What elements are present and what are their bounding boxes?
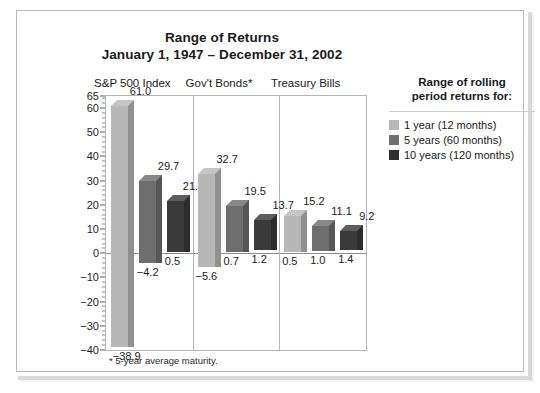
bar-value-high: 19.5 xyxy=(245,185,266,197)
bar-side-face xyxy=(128,100,134,348)
y-tick-label: 40 xyxy=(87,150,99,162)
bar-front-face xyxy=(312,226,329,250)
bar xyxy=(167,201,184,252)
bar-value-low: 1.2 xyxy=(252,253,267,265)
plot-area: 61.0−38.929.7−4.221.40.532.7−5.619.50.71… xyxy=(105,95,367,351)
y-tick-label: 20 xyxy=(87,199,99,211)
legend-item-3[interactable]: 10 years (120 months) xyxy=(389,149,535,161)
legend-item-1[interactable]: 1 year (12 months) xyxy=(389,119,535,131)
bar-value-low: 1.0 xyxy=(310,254,325,266)
legend: Range of rolling period returns for: 1 y… xyxy=(389,75,535,164)
chart-subtitle: January 1, 1947 – December 31, 2002 xyxy=(17,46,427,63)
chart-page: Range of Returns January 1, 1947 – Decem… xyxy=(0,0,540,393)
chart-title-block: Range of Returns January 1, 1947 – Decem… xyxy=(17,29,427,63)
bar-value-high: 61.0 xyxy=(130,85,151,97)
y-tick-label: −20 xyxy=(80,296,99,308)
legend-item-2[interactable]: 5 years (60 months) xyxy=(389,134,535,146)
column-header-2: Gov't Bonds* xyxy=(176,77,263,89)
bar xyxy=(254,220,271,250)
bar-side-face xyxy=(243,200,249,251)
bar-value-high: 11.1 xyxy=(331,205,352,217)
bar-side-face xyxy=(156,175,162,263)
bar-value-low: 0.5 xyxy=(282,255,297,267)
legend-item-label: 5 years (60 months) xyxy=(404,134,502,146)
y-tick-label: 0 xyxy=(93,247,99,259)
bar xyxy=(139,181,156,263)
y-tick-label: −40 xyxy=(80,344,99,356)
bar xyxy=(226,206,243,251)
y-tick-label: −10 xyxy=(80,271,99,283)
bar-front-face xyxy=(284,216,301,252)
legend-title-line2: period returns for: xyxy=(389,89,535,103)
bar-front-face xyxy=(340,231,357,250)
chart-footnote: * 5-year average maturity. xyxy=(109,355,218,366)
y-tick-label: 65 xyxy=(87,90,99,102)
y-tick-label: 10 xyxy=(87,223,99,235)
bar-front-face xyxy=(226,206,243,251)
bar-side-face xyxy=(184,195,190,252)
bar-front-face xyxy=(111,106,128,348)
bar xyxy=(111,106,128,348)
bar-front-face xyxy=(139,181,156,263)
y-tick-label: 60 xyxy=(87,102,99,114)
y-axis: 656050403020100−10−20−30−40 xyxy=(69,95,105,351)
y-tick-label: −30 xyxy=(80,320,99,332)
legend-item-label: 1 year (12 months) xyxy=(404,119,496,131)
chart-title: Range of Returns xyxy=(17,29,427,46)
bar-front-face xyxy=(167,201,184,252)
column-header-3: Treasury Bills xyxy=(262,77,349,89)
legend-divider xyxy=(389,111,535,112)
legend-items: 1 year (12 months)5 years (60 months)10 … xyxy=(389,119,535,161)
bar-value-low: 0.7 xyxy=(224,255,239,267)
legend-swatch-icon xyxy=(389,150,399,160)
bar-value-high: 15.2 xyxy=(303,195,324,207)
bar-side-face xyxy=(215,168,221,267)
y-tick-label: 30 xyxy=(87,175,99,187)
bar-value-low: −4.2 xyxy=(137,266,159,278)
bar-front-face xyxy=(198,174,215,267)
legend-item-label: 10 years (120 months) xyxy=(404,149,514,161)
bar xyxy=(312,226,329,250)
bar-side-face xyxy=(301,210,307,252)
chart-frame: Range of Returns January 1, 1947 – Decem… xyxy=(16,10,524,372)
panel-separator-1 xyxy=(193,96,194,350)
bar-value-low: 1.4 xyxy=(338,253,353,265)
bar-value-low: 0.5 xyxy=(165,255,180,267)
bar-value-high: 29.7 xyxy=(158,160,179,172)
bar-value-high: 9.2 xyxy=(359,210,374,222)
bar-front-face xyxy=(254,220,271,250)
legend-swatch-icon xyxy=(389,135,399,145)
bar xyxy=(340,231,357,250)
bar xyxy=(198,174,215,267)
bar xyxy=(284,216,301,252)
bar-value-high: 32.7 xyxy=(217,153,238,165)
legend-swatch-icon xyxy=(389,120,399,130)
panel-separator-2 xyxy=(279,96,280,350)
legend-title-line1: Range of rolling xyxy=(389,75,535,89)
y-tick-label: 50 xyxy=(87,126,99,138)
bar-value-low: −5.6 xyxy=(196,270,218,282)
